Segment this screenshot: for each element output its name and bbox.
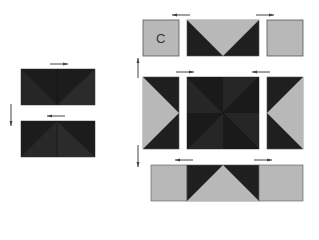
row3 bbox=[151, 165, 303, 201]
center-hourglass bbox=[187, 77, 259, 149]
light-rect-left bbox=[151, 165, 187, 201]
flying-geese-right bbox=[143, 77, 179, 149]
left-bottom-strip bbox=[21, 121, 95, 157]
flying-geese-down bbox=[187, 20, 259, 56]
light-square-right bbox=[267, 20, 303, 56]
row2 bbox=[143, 77, 303, 149]
flying-geese-up bbox=[187, 165, 259, 201]
piece-c-label: C bbox=[156, 31, 165, 46]
left-top-strip bbox=[21, 69, 95, 105]
row1 bbox=[143, 20, 303, 56]
flying-geese-left bbox=[267, 77, 303, 149]
light-rect-right bbox=[259, 165, 303, 201]
